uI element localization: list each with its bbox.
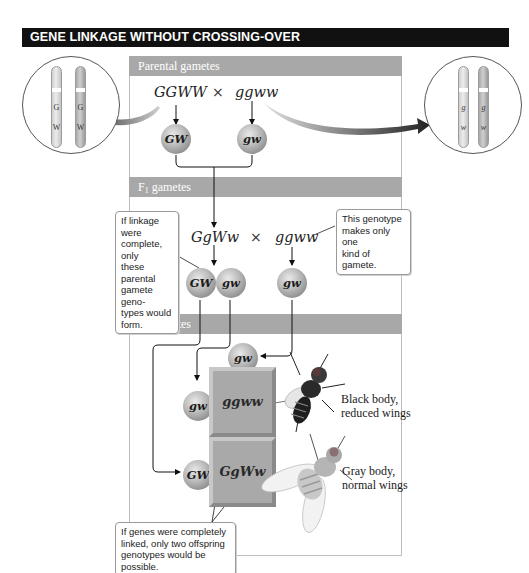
gray-fly-icon [258, 434, 352, 534]
phenotype-label-black: Black body, reduced wings [341, 392, 411, 420]
phenotype-label-gray: Gray body, normal wings [342, 464, 408, 492]
phenotype-line: reduced wings [341, 406, 411, 420]
phenotype-line: Black body, [341, 392, 411, 406]
phenotype-line: Gray body, [342, 464, 408, 478]
phenotype-line: normal wings [342, 478, 408, 492]
fly-illustrations [0, 0, 529, 573]
black-fly-icon [281, 352, 345, 432]
